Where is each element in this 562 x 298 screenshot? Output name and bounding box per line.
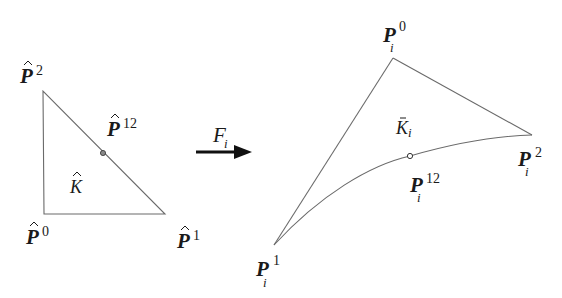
- reference-midpoint-marker: [100, 150, 105, 155]
- label-base: P: [517, 147, 531, 171]
- label-phys-k: K i: [395, 118, 412, 140]
- label-sub: i: [390, 40, 394, 55]
- mapping-arrow: F i: [196, 123, 252, 159]
- label-ref-p2: P 2: [19, 61, 43, 88]
- label-phys-p0: P 0 i: [382, 19, 406, 55]
- label-ref-p1: P 1: [176, 226, 200, 253]
- label-base: P: [255, 257, 269, 281]
- edge-p0-p2: [393, 58, 532, 135]
- label-sup: 2: [535, 145, 542, 160]
- label-phys-p1: P 1 i: [255, 253, 280, 290]
- label-phys-p12: P 12 i: [409, 171, 440, 205]
- reference-triangle: [43, 91, 165, 214]
- arrow-right-icon: [234, 145, 252, 159]
- label-sup: 1: [193, 228, 200, 243]
- label-sup: 0: [399, 19, 406, 34]
- label-sub: i: [417, 190, 421, 205]
- hat-accent-icon: [73, 172, 81, 176]
- label-base: P: [176, 229, 190, 253]
- label-sub: i: [525, 164, 529, 179]
- label-sub: i: [408, 125, 412, 140]
- curved-edge-p1-p2: [274, 135, 532, 245]
- label-base: P: [382, 23, 396, 47]
- edge-p1-p0: [274, 58, 393, 245]
- label-sup: 12: [426, 171, 440, 186]
- label-base: P: [106, 117, 120, 141]
- label-ref-p12: P 12: [106, 114, 137, 141]
- label-ref-k: K: [69, 172, 83, 197]
- label-sup: 12: [123, 116, 137, 131]
- label-sup: 1: [273, 253, 280, 268]
- label-base: P: [19, 64, 33, 88]
- label-map-sub: i: [224, 136, 228, 151]
- physical-midpoint-marker: [407, 153, 412, 158]
- label-sup: 0: [42, 224, 49, 239]
- label-base: P: [25, 225, 39, 249]
- label-sub: i: [263, 275, 267, 290]
- physical-element: [274, 58, 532, 245]
- label-ref-p0: P 0: [25, 222, 49, 249]
- label-sup: 2: [36, 63, 43, 78]
- diagram-canvas: P 2 P 0 P 1 P 12 K F i P 0 i: [0, 0, 562, 298]
- label-base: P: [409, 173, 423, 197]
- label-phys-p2: P 2 i: [517, 145, 542, 179]
- label-base: K: [395, 118, 409, 138]
- label-base: K: [69, 177, 83, 197]
